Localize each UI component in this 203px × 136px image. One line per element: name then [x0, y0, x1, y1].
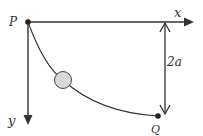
x-axis-arrowhead	[184, 18, 194, 27]
label-x: x	[174, 5, 182, 20]
ball	[55, 72, 72, 89]
point-q	[155, 113, 161, 119]
label-p: P	[8, 15, 18, 29]
curve-path	[28, 22, 158, 116]
brachistochrone-diagram: P Q x y 2a	[0, 0, 203, 136]
label-y: y	[7, 113, 16, 128]
y-axis-arrowhead	[24, 115, 33, 125]
label-q: Q	[151, 123, 160, 136]
label-height: 2a	[166, 55, 182, 69]
point-p	[25, 19, 31, 25]
